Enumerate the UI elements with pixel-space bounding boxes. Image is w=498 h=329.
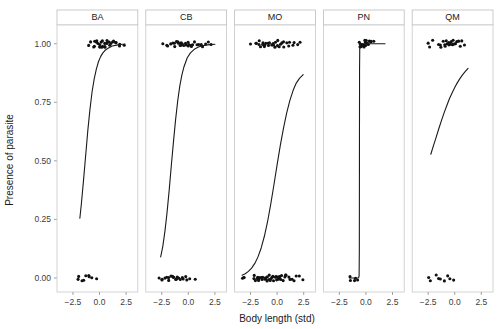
y-tick-label-4: 1.00 [34,39,51,49]
data-point-present [463,44,466,47]
data-point-absent [77,278,80,281]
data-point-absent [242,276,245,279]
facet-panels: BACBMOPNQM [57,10,493,292]
faceted-logistic-plot: 0.000.250.500.751.00 BACBMOPNQM −2.50.02… [0,0,498,329]
data-point-present [276,39,279,42]
data-point-absent [272,279,275,282]
panel-frame-CB [146,25,227,292]
data-point-present [161,42,164,45]
data-point-present [299,41,302,44]
data-point-present [439,46,442,49]
data-point-present [452,39,455,42]
facet-panel-BA: BA [57,10,138,292]
data-point-present [442,40,445,43]
data-point-absent [439,278,442,281]
data-point-present [427,42,430,45]
x-tick-label-CB-1: 0.0 [182,297,194,307]
data-point-present [296,43,299,46]
facet-panel-QM: QM [412,10,493,292]
x-tick-label-BA-0: −2.5 [65,297,82,307]
data-point-absent [184,275,187,278]
data-point-present [93,45,96,48]
data-point-present [177,41,180,44]
y-axis-title: Presence of parasite [4,114,15,206]
data-point-absent [95,277,98,280]
figure-container: 0.000.250.500.751.00 BACBMOPNQM −2.50.02… [0,0,498,329]
data-point-absent [443,279,446,282]
data-point-absent [452,279,455,282]
facet-panel-PN: PN [323,10,404,292]
data-point-present [293,41,296,44]
data-point-absent [84,274,87,277]
data-point-present [249,42,252,45]
data-point-present [259,45,262,48]
y-tick-label-2: 0.50 [34,156,51,166]
data-point-absent [82,279,85,282]
data-point-absent [282,279,285,282]
data-point-present [428,45,431,48]
x-tick-label-BA-2: 2.5 [120,297,132,307]
data-point-present [287,44,290,47]
data-point-absent [185,278,188,281]
data-point-absent [167,279,170,282]
data-point-present [444,45,447,48]
data-point-present [115,41,118,44]
x-tick-label-QM-1: 0.0 [449,297,461,307]
data-point-present [268,41,271,44]
facet-panel-MO: MO [235,10,316,292]
panel-frame-PN [323,25,404,292]
data-point-present [460,39,463,42]
x-tick-label-CB-2: 2.5 [209,297,221,307]
data-point-absent [295,274,298,277]
strip-label-MO: MO [268,12,283,22]
y-tick-label-3: 0.75 [34,97,51,107]
data-point-present [207,40,210,43]
data-point-absent [356,278,359,281]
data-point-present [173,45,176,48]
data-point-present [285,41,288,44]
data-point-absent [194,278,197,281]
data-point-present [254,42,257,45]
data-point-absent [292,279,295,282]
x-tick-label-MO-1: 0.0 [271,297,283,307]
strip-label-CB: CB [180,12,193,22]
data-point-present [89,40,92,43]
data-point-absent [446,274,449,277]
data-point-present [457,40,460,43]
data-point-present [193,40,196,43]
data-point-absent [253,274,256,277]
data-point-absent [448,277,451,280]
y-tick-label-0: 0.00 [34,273,51,283]
y-axis: 0.000.250.500.751.00 [34,39,57,283]
data-point-present [431,39,434,42]
data-point-absent [284,274,287,277]
panel-frame-MO [235,25,316,292]
data-point-absent [160,278,163,281]
panel-frame-QM [412,25,493,292]
data-point-absent [90,276,93,279]
data-point-present [459,45,462,48]
y-tick-label-1: 0.25 [34,214,51,224]
data-point-present [191,43,194,46]
strip-label-BA: BA [91,12,103,22]
data-point-present [166,45,169,48]
data-point-present [372,40,375,43]
data-point-absent [280,274,283,277]
data-point-absent [182,277,185,280]
x-tick-label-QM-0: −2.5 [420,297,437,307]
x-tick-label-BA-1: 0.0 [94,297,106,307]
data-point-present [282,40,285,43]
strip-label-QM: QM [445,12,460,22]
strip-label-PN: PN [358,12,371,22]
data-point-present [258,39,261,42]
data-point-absent [268,274,271,277]
data-point-present [282,45,285,48]
x-tick-label-PN-0: −2.5 [331,297,348,307]
data-point-present [87,44,90,47]
x-axis: −2.50.02.5−2.50.02.5−2.50.02.5−2.50.02.5… [65,292,488,307]
data-point-absent [298,274,301,277]
data-point-present [288,41,291,44]
data-point-absent [429,279,432,282]
data-point-absent [172,276,175,279]
data-point-absent [158,276,161,279]
